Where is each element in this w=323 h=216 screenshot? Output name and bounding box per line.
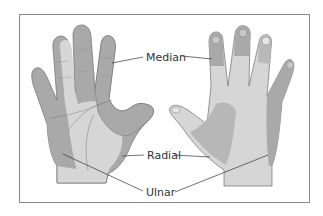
right-radial-zone (190, 102, 236, 165)
label-median: Median (146, 52, 186, 64)
label-ulnar: Ulnar (146, 187, 175, 199)
right-ulnar-zone (266, 60, 293, 166)
right-hand-dorsum (170, 26, 294, 186)
hands-diagram (0, 0, 323, 216)
left-median-zone (95, 36, 154, 136)
left-hand-palm (32, 25, 154, 183)
label-radial: Radial (147, 150, 181, 162)
